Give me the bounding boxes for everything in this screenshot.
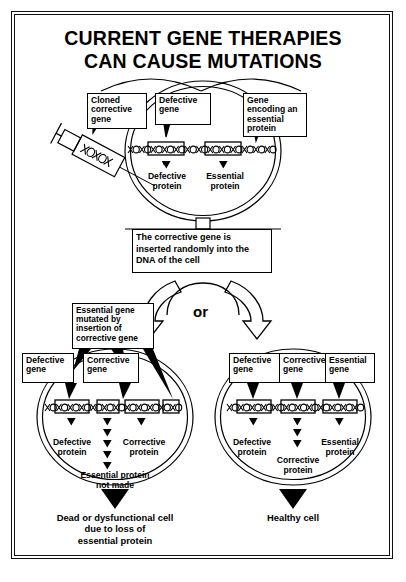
branch-or-label: or xyxy=(193,303,208,320)
top-cell-expression-arrows xyxy=(162,161,228,169)
callout-essential-gene-right: Essential gene xyxy=(325,353,375,383)
callout-cloned-corrective-gene: Cloned corrective gene xyxy=(87,93,147,129)
left-defective-protein-label: Defective protein xyxy=(43,437,101,457)
callout-gene-encoding-essential-protein: Gene encoding an essential protein xyxy=(243,93,307,137)
left-corrective-protein-label: Corrective protein xyxy=(115,437,173,457)
right-outcome-caption: Healthy cell xyxy=(243,512,343,523)
figure-root: CURRENT GENE THERAPIES CAN CAUSE MUTATIO… xyxy=(0,0,406,582)
top-essential-protein-label: Essential protein xyxy=(195,171,255,191)
outcome-arrows xyxy=(101,489,307,509)
left-essential-protein-not-made: Essential protein not made xyxy=(59,470,171,490)
callout-defective-gene-left: Defective gene xyxy=(22,353,74,383)
top-cell-connector xyxy=(125,218,281,229)
callout-corrective-gene-left: Corrective gene xyxy=(83,353,139,383)
statement-insertion: The corrective gene is inserted randomly… xyxy=(132,229,272,273)
figure-frame: CURRENT GENE THERAPIES CAN CAUSE MUTATIO… xyxy=(14,14,390,556)
left-cell-dna xyxy=(45,400,182,413)
left-outcome-caption: Dead or dysfunctional cell due to loss o… xyxy=(35,512,195,546)
top-defective-protein-label: Defective protein xyxy=(137,171,197,191)
callout-defective-gene-top: Defective gene xyxy=(155,93,211,125)
callout-defective-gene-right: Defective gene xyxy=(229,353,281,383)
right-cell-dna xyxy=(227,400,364,413)
right-corrective-protein-label: Corrective protein xyxy=(267,455,329,475)
callout-essential-gene-mutated: Essential gene mutated by insertion of c… xyxy=(72,303,154,349)
top-cell-dna xyxy=(128,142,276,155)
right-callout-tails xyxy=(247,383,345,399)
